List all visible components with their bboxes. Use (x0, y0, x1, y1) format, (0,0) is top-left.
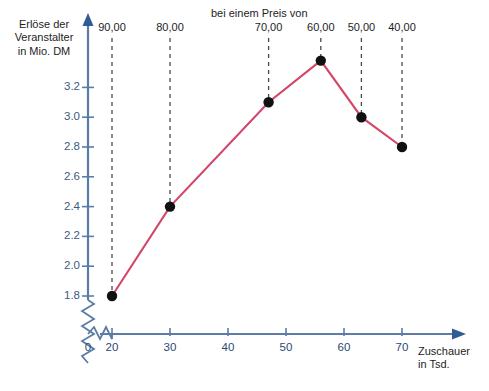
axis-lines (82, 13, 466, 363)
x-tick-label: 40 (211, 340, 245, 354)
y-tick-label: 2.2 (46, 228, 80, 242)
chart-canvas (0, 0, 489, 391)
x-tick-label: 70 (385, 340, 419, 354)
y-tick-label: 2.8 (46, 139, 80, 153)
data-points (107, 55, 407, 301)
y-tick-label: 3.2 (46, 79, 80, 93)
y-tick-label: 2.4 (46, 199, 80, 213)
y-tick-label: 2.0 (46, 258, 80, 272)
price-label: 90,00 (86, 21, 138, 34)
x-axis-title-line-2: in Tsd. (418, 358, 484, 371)
data-line (112, 61, 402, 296)
price-label: 80,00 (144, 21, 196, 34)
y-tick-label: 1.8 (46, 288, 80, 302)
price-annotation-header: bei einem Preis von (211, 7, 308, 20)
y-axis-title-line-2: Veranstalter (6, 31, 82, 44)
price-label: 70,00 (243, 21, 295, 34)
x-origin-label: 0 (71, 340, 105, 354)
y-axis-title-line-3: in Mio. DM (6, 45, 82, 58)
revenue-chart: Erlöse der Veranstalter in Mio. DM Zusch… (0, 0, 489, 391)
x-tick-label: 30 (153, 340, 187, 354)
price-dashed-guides (112, 38, 402, 296)
x-axis-title-line-1: Zuschauer (418, 345, 484, 358)
y-tick-label: 2.6 (46, 169, 80, 183)
y-axis-title: Erlöse der Veranstalter in Mio. DM (6, 18, 82, 58)
x-tick-label: 50 (269, 340, 303, 354)
x-tick-label: 60 (327, 340, 361, 354)
y-axis-title-line-1: Erlöse der (6, 18, 82, 31)
x-axis-title: Zuschauer in Tsd. (418, 345, 484, 372)
price-label: 40,00 (376, 21, 428, 34)
y-tick-label: 3.0 (46, 109, 80, 123)
